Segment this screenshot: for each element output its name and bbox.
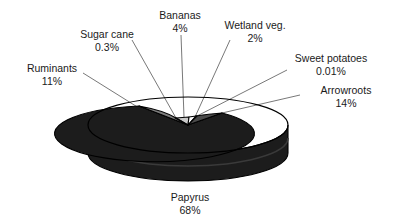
slice-label-wetland-veg: Wetland veg. 2% bbox=[224, 19, 285, 44]
slice-label-ruminants-name: Ruminants bbox=[27, 62, 77, 75]
slice-label-ruminants: Ruminants 11% bbox=[27, 62, 77, 87]
pie-top-slices bbox=[55, 106, 255, 162]
slice-label-papyrus-name: Papyrus bbox=[171, 191, 210, 204]
slice-label-sweet-potatoes: Sweet potatoes 0.01% bbox=[295, 52, 367, 77]
pie-chart-figure: Sugar cane 0.3% Bananas 4% Wetland veg. … bbox=[0, 0, 400, 223]
slice-label-sugar-cane-name: Sugar cane bbox=[80, 28, 134, 41]
slice-label-arrowroots-name: Arrowroots bbox=[321, 84, 372, 97]
leader-line-bananas bbox=[181, 35, 184, 117]
slice-label-sweet-potatoes-name: Sweet potatoes bbox=[295, 52, 367, 65]
leader-line-sweet-potatoes bbox=[197, 70, 287, 116]
slice-label-papyrus: Papyrus 68% bbox=[171, 191, 210, 216]
leader-line-arrowroots bbox=[222, 95, 300, 113]
pie-slice-papyrus bbox=[55, 106, 255, 162]
slice-label-sweet-potatoes-percent: 0.01% bbox=[295, 65, 367, 78]
slice-label-wetland-veg-name: Wetland veg. bbox=[224, 19, 285, 32]
leader-line-ruminants bbox=[83, 73, 139, 108]
slice-label-bananas-percent: 4% bbox=[159, 22, 200, 35]
slice-label-bananas: Bananas 4% bbox=[159, 9, 200, 34]
slice-label-arrowroots: Arrowroots 14% bbox=[321, 84, 372, 109]
slice-label-wetland-veg-percent: 2% bbox=[224, 32, 285, 45]
slice-label-sugar-cane: Sugar cane 0.3% bbox=[80, 28, 134, 53]
leader-line-wetland-veg bbox=[195, 40, 230, 117]
slice-label-arrowroots-percent: 14% bbox=[321, 97, 372, 110]
slice-label-papyrus-percent: 68% bbox=[171, 204, 210, 217]
slice-label-bananas-name: Bananas bbox=[159, 9, 200, 22]
slice-label-ruminants-percent: 11% bbox=[27, 75, 77, 88]
slice-label-sugar-cane-percent: 0.3% bbox=[80, 41, 134, 54]
